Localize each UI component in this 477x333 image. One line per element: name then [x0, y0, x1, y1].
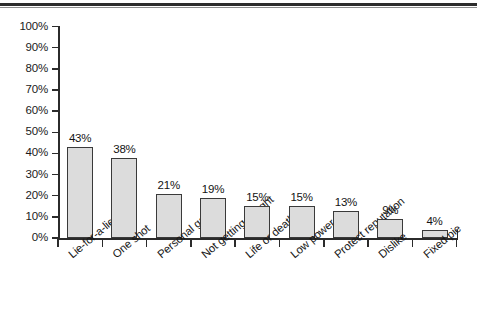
y-axis-tick	[52, 89, 58, 91]
y-axis-tick-label: 0%	[2, 232, 48, 244]
bar-value-label: 13%	[324, 197, 368, 209]
y-axis-tick	[52, 174, 58, 176]
bar-value-label: 43%	[58, 133, 102, 145]
x-axis-tick	[412, 239, 414, 247]
bar-value-label: 21%	[147, 180, 191, 192]
y-axis-tick	[52, 132, 58, 134]
bar-value-label: 38%	[102, 144, 146, 156]
y-axis-tick-label: 100%	[2, 21, 48, 33]
y-axis-tick-label: 50%	[2, 126, 48, 138]
y-axis-tick-label: 70%	[2, 84, 48, 96]
bar-value-label: 15%	[235, 192, 279, 204]
x-axis-tick	[367, 239, 369, 247]
x-axis-tick	[102, 239, 104, 247]
y-axis-tick	[52, 195, 58, 197]
y-axis-tick-label: 80%	[2, 63, 48, 75]
bar	[111, 158, 137, 238]
y-axis-tick	[52, 110, 58, 112]
bar-value-label: 19%	[191, 184, 235, 196]
x-axis-tick	[190, 239, 192, 247]
y-axis-tick-label: 40%	[2, 147, 48, 159]
bar	[67, 147, 93, 238]
y-axis-tick	[52, 47, 58, 49]
y-axis-tick	[52, 68, 58, 70]
x-axis-tick	[234, 239, 236, 247]
x-axis-tick	[146, 239, 148, 247]
y-axis-tick-label: 60%	[2, 105, 48, 117]
bar-value-label: 15%	[280, 192, 324, 204]
y-axis-tick-label: 10%	[2, 211, 48, 223]
y-axis-tick-label: 90%	[2, 42, 48, 54]
bar-value-label: 9%	[368, 205, 412, 217]
y-axis-tick	[52, 26, 58, 28]
y-axis-tick	[52, 216, 58, 218]
y-axis-tick-label: 20%	[2, 190, 48, 202]
y-axis-tick-label: 30%	[2, 169, 48, 181]
plot-area: 100%90%80%70%60%50%40%30%20%10%0%43%Lie-…	[0, 0, 477, 333]
x-axis-tick	[57, 239, 59, 247]
x-axis-tick	[323, 239, 325, 247]
x-axis-tick	[279, 239, 281, 247]
y-axis-tick	[52, 153, 58, 155]
bar-chart-figure: 100%90%80%70%60%50%40%30%20%10%0%43%Lie-…	[0, 0, 477, 333]
x-axis-tick	[456, 239, 458, 247]
